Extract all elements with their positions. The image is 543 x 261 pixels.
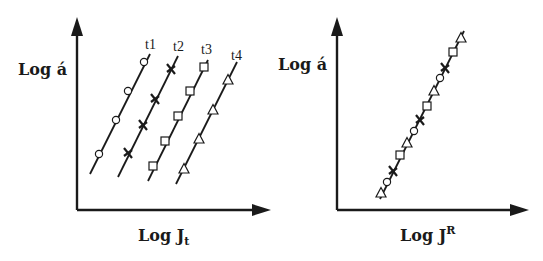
triangle-icon: [208, 105, 218, 115]
series-t1: t1: [90, 37, 156, 174]
arrow-up-icon: [331, 17, 343, 36]
left-panel: Log á Log Jt t1 t2 t3: [18, 17, 271, 248]
series-t3: t3: [148, 42, 212, 181]
square-icon: [174, 112, 182, 120]
square-icon: [449, 48, 457, 56]
triangle-icon: [456, 33, 466, 43]
right-x-axis-label: Log JR: [400, 224, 456, 245]
series-label-t3: t3: [201, 42, 212, 57]
right-panel: Log á Log JR: [278, 17, 529, 245]
left-y-axis-label: Log á: [18, 60, 67, 79]
right-y-axis-label: Log á: [278, 55, 327, 74]
left-y-axis: [71, 17, 83, 210]
arrow-right-icon: [510, 204, 529, 216]
series-label-t1: t1: [145, 37, 156, 52]
square-icon: [200, 63, 208, 71]
square-icon: [149, 162, 157, 170]
triangle-icon: [429, 86, 439, 96]
left-x-axis-label: Log Jt: [138, 226, 190, 248]
circle-icon: [95, 150, 102, 157]
square-icon: [161, 137, 169, 145]
triangle-icon: [223, 75, 233, 85]
triangle-icon: [194, 134, 204, 144]
circle-icon: [112, 116, 119, 123]
square-icon: [423, 102, 431, 110]
diagram-canvas: Log á Log Jt t1 t2 t3: [0, 0, 543, 261]
left-x-axis: [77, 204, 271, 216]
circle-icon: [383, 178, 390, 185]
right-x-axis: [337, 204, 529, 216]
series-label-t4: t4: [231, 48, 242, 63]
series-label-t2: t2: [173, 39, 184, 54]
arrow-up-icon: [71, 17, 83, 36]
series-t4: t4: [176, 48, 242, 184]
series-t2: t2: [118, 39, 184, 177]
right-y-axis: [331, 17, 343, 210]
circle-icon: [410, 127, 417, 134]
square-icon: [186, 87, 194, 95]
circle-icon: [436, 74, 443, 81]
triangle-icon: [179, 164, 189, 174]
master-curve: [376, 31, 466, 199]
arrow-right-icon: [252, 204, 271, 216]
circle-icon: [124, 87, 131, 94]
circle-icon: [140, 58, 147, 65]
square-icon: [396, 151, 404, 159]
